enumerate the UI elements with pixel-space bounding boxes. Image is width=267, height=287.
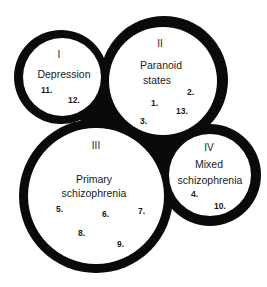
member-6: 6. (102, 209, 109, 219)
member-2: 2. (187, 87, 194, 97)
member-7: 7. (138, 206, 145, 216)
member-8: 8. (78, 228, 85, 238)
member-5: 5. (56, 204, 63, 214)
member-1: 1. (151, 98, 158, 108)
group-IV-name-line2: schizophrenia (178, 174, 243, 186)
group-II-numeral: II (157, 38, 163, 49)
cluster-diagram: I Depression 11. 12. II Paranoid states … (0, 0, 267, 287)
member-12: 12. (68, 95, 80, 105)
member-4: 4. (191, 189, 198, 199)
group-III-name-line2: schizophrenia (62, 187, 127, 199)
group-II-name-line1: Paranoid (140, 59, 182, 71)
group-I-numeral: I (58, 49, 61, 60)
member-9: 9. (117, 239, 124, 249)
member-11: 11. (41, 85, 52, 95)
group-IV-name-line1: Mixed (195, 158, 223, 170)
member-10: 10. (214, 201, 226, 211)
group-IV-numeral: IV (204, 142, 214, 153)
member-3: 3. (140, 116, 147, 126)
group-II-name-line2: states (143, 74, 171, 86)
group-I-name: Depression (37, 68, 90, 80)
member-13: 13. (176, 106, 188, 116)
group-III-name-line1: Primary (76, 173, 113, 185)
group-III-numeral: III (92, 140, 100, 151)
